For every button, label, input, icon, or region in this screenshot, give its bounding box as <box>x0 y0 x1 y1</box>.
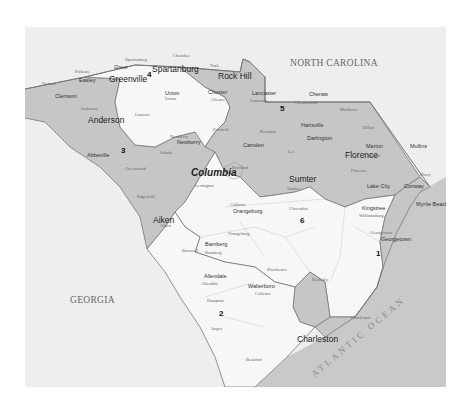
county-newberry: Newberry <box>170 135 188 140</box>
county-marion: Marion <box>367 154 380 159</box>
county-beaufort: Beaufort <box>246 358 262 363</box>
city-greenville: Greenville <box>109 75 147 84</box>
town-myrtle-beach: Myrtle Beach <box>416 202 446 208</box>
county-horry: Horry <box>420 173 431 178</box>
county-bamberg: Bamberg <box>205 251 221 256</box>
label-north-carolina: NORTH CAROLINA <box>290 59 378 69</box>
town-lake-city: Lake City <box>367 184 390 190</box>
town-allendale: Allendale <box>204 274 227 280</box>
county-lexington: Lexington <box>195 184 214 189</box>
town-easley: Easley <box>79 78 96 84</box>
town-orangeburg: Orangeburg <box>233 209 262 215</box>
city-columbia: Columbia <box>191 168 237 178</box>
city-charleston: Charleston <box>297 335 338 344</box>
county-anderson: Anderson <box>80 107 98 112</box>
county-williamsburg: Williamsburg <box>359 214 383 219</box>
town-darlington: Darlington <box>307 136 332 142</box>
town-mullins: Mullins <box>410 144 427 150</box>
county-lancaster: Lancaster <box>250 99 268 104</box>
label-georgia: GEORGIA <box>70 296 115 306</box>
town-hartsville: Hartsville <box>301 123 324 129</box>
county-barnwell: Barnwell <box>182 249 199 254</box>
county-dorchester: Dorchester <box>267 268 287 273</box>
town-camden: Camden <box>243 143 264 149</box>
county-georgetown: Georgetown <box>370 231 392 236</box>
county-hampton: Hampton <box>207 299 224 304</box>
district-number-3: 3 <box>121 147 125 155</box>
county-dillon: Dillon <box>363 126 375 131</box>
county-york: York <box>210 64 219 69</box>
county-berkeley: Berkeley <box>312 278 328 283</box>
town-cheraw: Cheraw <box>309 92 328 98</box>
town-abbeville: Abbeville <box>87 153 109 159</box>
town-clemson: Clemson <box>55 94 77 100</box>
county-aiken: Aiken <box>160 224 171 229</box>
town-georgetown: Georgetown <box>381 237 411 243</box>
county-clarendon: Clarendon <box>289 207 308 212</box>
county-jasper: Jasper <box>211 327 222 332</box>
city-anderson: Anderson <box>88 116 124 125</box>
county-sumter: Sumter <box>287 187 300 192</box>
town-chester: Chester <box>208 90 227 96</box>
county-calhoun: Calhoun <box>230 203 245 208</box>
county-florence: Florence <box>351 169 367 174</box>
town-marion: Marion <box>366 144 383 150</box>
county-chesterfield: Chesterfield <box>295 101 317 106</box>
town-conway: Conway <box>404 184 424 190</box>
county-kershaw: Kershaw <box>260 130 276 135</box>
county-orangeburg: Orangeburg <box>228 232 249 237</box>
county-allendale: Allendale <box>201 282 219 287</box>
town-bamberg: Bamberg <box>205 242 227 248</box>
county-greenwood: Greenwood <box>125 167 146 172</box>
county-lee: Lee <box>288 150 295 155</box>
city-sumter: Sumter <box>289 175 316 184</box>
county-spartanburg: Spartanburg <box>125 58 147 63</box>
county-edgefield: Edgefield <box>137 195 155 200</box>
district-number-6: 6 <box>300 217 304 225</box>
town-newberry: Newberry <box>177 140 201 146</box>
district-number-4: 4 <box>147 71 151 79</box>
county-saluda: Saluda <box>160 151 172 156</box>
county-pickens: Pickens <box>75 70 89 75</box>
county-oconee: Oconee <box>42 82 56 87</box>
county-marlboro: Marlboro <box>340 108 357 113</box>
town-walterboro: Walterboro <box>248 284 275 290</box>
city-spartanburg: Spartanburg <box>152 65 199 74</box>
county-union: Union <box>165 97 176 102</box>
town-greer: Greer <box>114 65 128 71</box>
district-number-1: 1 <box>376 250 380 258</box>
town-kingstree: Kingstree <box>362 206 385 212</box>
city-rock-hill: Rock Hill <box>218 72 252 81</box>
map-frame: NORTH CAROLINA GEORGIA ATLANTIC OCEAN 4 … <box>25 27 446 387</box>
county-fairfield: Fairfield <box>213 128 229 133</box>
county-colleton: Colleton <box>255 292 271 297</box>
county-richland: Richland <box>232 166 248 171</box>
town-lancaster: Lancaster <box>252 91 276 97</box>
county-charleston: Charleston <box>351 316 371 321</box>
county-cherokee: Cherokee <box>173 54 190 59</box>
county-laurens: Laurens <box>135 113 150 118</box>
district-number-5: 5 <box>280 105 284 113</box>
district-number-2: 2 <box>219 310 223 318</box>
county-chester: Chester <box>211 98 225 103</box>
